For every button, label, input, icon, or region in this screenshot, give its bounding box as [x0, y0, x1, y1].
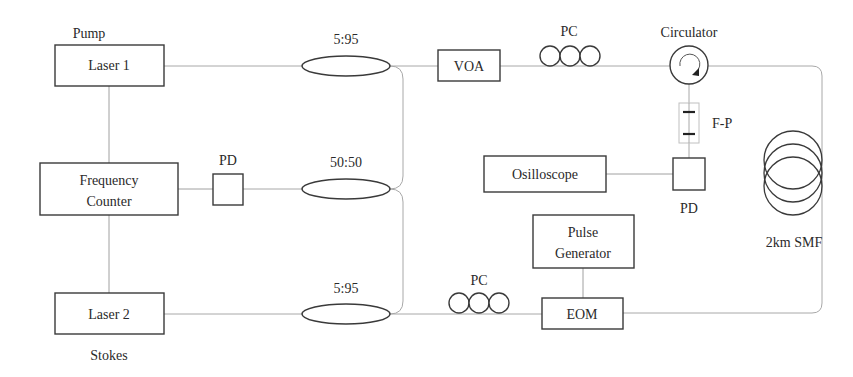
pd-right-label: PD — [680, 201, 698, 216]
pulse-generator-line1: Pulse — [568, 225, 598, 240]
coupler-bottom-ratio: 5:95 — [334, 281, 359, 296]
oscilloscope: Osilloscope — [484, 156, 606, 192]
coupler-top: 5:95 — [302, 32, 390, 76]
eom-label: EOM — [566, 307, 598, 322]
frequency-counter: Frequency Counter — [40, 163, 178, 215]
frequency-counter-line2: Counter — [86, 194, 131, 209]
coupler-middle: 50:50 — [302, 155, 390, 199]
eom: EOM — [542, 298, 623, 329]
circulator-label: Circulator — [661, 25, 718, 40]
pulse-generator: Pulse Generator — [533, 215, 634, 268]
laser-2: Laser 2 Stokes — [55, 293, 164, 363]
optical-setup-diagram: Pump Laser 1 Frequency Counter Laser 2 S… — [0, 0, 853, 377]
polarization-controller-bottom: PC — [449, 273, 509, 313]
pc-bottom-label: PC — [470, 273, 487, 288]
laser-1: Pump Laser 1 — [55, 26, 164, 86]
pump-label: Pump — [73, 26, 106, 41]
coupler-top-ratio: 5:95 — [334, 32, 359, 47]
coupler-bottom: 5:95 — [302, 281, 390, 324]
laser-1-label: Laser 1 — [88, 58, 130, 73]
pulse-generator-line2: Generator — [555, 246, 611, 261]
voa-label: VOA — [454, 59, 485, 74]
photodetector-left: PD — [213, 153, 243, 205]
circulator: Circulator — [661, 25, 718, 84]
frequency-counter-line1: Frequency — [79, 173, 138, 188]
fiber-coil-smf: 2km SMF — [764, 131, 822, 250]
coupler-middle-ratio: 50:50 — [330, 155, 362, 170]
fabry-perot-filter: F-P — [679, 103, 732, 143]
smf-label: 2km SMF — [766, 235, 823, 250]
photodetector-right: PD — [673, 158, 705, 216]
laser-2-label: Laser 2 — [88, 307, 130, 322]
fiber-coil-icon — [764, 131, 822, 189]
pc-top-label: PC — [560, 24, 577, 39]
polarization-controller-top: PC — [540, 24, 600, 66]
pd-left-label: PD — [219, 153, 237, 168]
fp-label: F-P — [712, 116, 732, 131]
stokes-label: Stokes — [90, 348, 127, 363]
voa: VOA — [438, 50, 500, 81]
oscilloscope-label: Osilloscope — [512, 167, 578, 182]
